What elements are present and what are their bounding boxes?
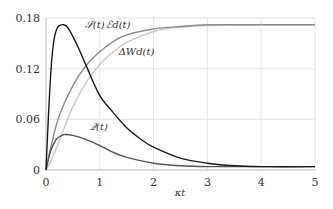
series-annotation: 𝒮(t) (85, 19, 105, 30)
annotations: 𝒮(t)ℰd(t)ΔWd(t)𝒬(t) (85, 19, 155, 132)
y-tick-label: 0.18 (16, 12, 41, 25)
line-chart: 00.060.120.18 012345 𝒮(t)ℰd(t)ΔWd(t)𝒬(t)… (0, 0, 333, 209)
series-line-st (46, 25, 315, 170)
y-tick-label: 0.06 (16, 113, 41, 126)
series-lines (46, 25, 315, 170)
x-tick-label: 1 (96, 176, 103, 189)
y-axis-ticks: 00.060.120.18 (16, 12, 41, 177)
series-annotation: ΔWd(t) (118, 46, 155, 57)
series-line-wdt (46, 25, 315, 170)
series-annotation: 𝒬(t) (89, 121, 108, 132)
x-tick-label: 3 (204, 176, 211, 189)
y-tick-label: 0 (33, 164, 40, 177)
x-tick-label: 5 (312, 176, 319, 189)
x-tick-label: 0 (43, 176, 50, 189)
series-line-edt (46, 25, 315, 170)
x-axis-label: κt (174, 187, 187, 198)
x-tick-label: 4 (258, 176, 265, 189)
series-line-qt (46, 135, 315, 170)
y-tick-label: 0.12 (16, 63, 41, 76)
grid (46, 18, 315, 170)
series-annotation: ℰd(t) (106, 19, 130, 30)
x-tick-label: 2 (150, 176, 157, 189)
